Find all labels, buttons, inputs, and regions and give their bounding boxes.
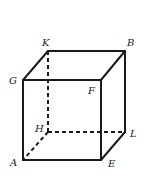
edge-el [101,132,125,160]
vertex-label-b: B [126,37,134,48]
vertex-label-l: L [129,128,137,139]
cube-diagram: K B G F H L A E [0,0,148,177]
vertex-label-f: F [87,85,96,96]
vertex-label-h: H [34,123,44,134]
edge-fb [101,51,125,80]
vertex-label-e: E [107,158,116,169]
edge-gk [23,51,48,80]
edge-ha [23,132,48,160]
dashed-edges [23,51,125,160]
vertex-label-a: A [9,157,17,168]
vertex-label-k: K [41,37,50,48]
vertex-labels: K B G F H L A E [9,37,137,169]
vertex-label-g: G [9,75,17,86]
